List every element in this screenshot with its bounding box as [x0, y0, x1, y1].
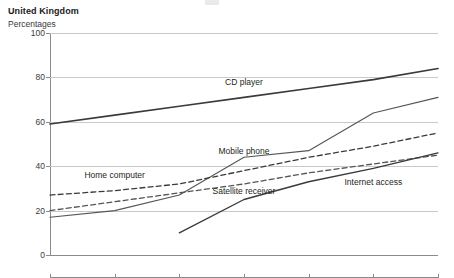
x-tick-mark-6	[438, 274, 439, 278]
series-label-home-computer: Home computer	[84, 170, 144, 180]
plot-area: 020406080100 1996/971997/981998/991999/0…	[50, 33, 438, 255]
series-label-satellite-receiver: Satellite receiver	[213, 186, 276, 196]
series-label-mobile-phone: Mobile phone	[218, 146, 269, 156]
x-tick-mark-5	[373, 274, 374, 278]
series-label-internet-access: Internet access	[345, 177, 403, 187]
y-tick-label-20: 20	[36, 206, 45, 216]
page-artifact-fragment	[205, 0, 219, 5]
y-tick-label-80: 80	[36, 72, 45, 82]
series-label-cd-player: CD player	[225, 77, 263, 87]
x-tick-mark-1	[115, 274, 116, 278]
y-tick-label-100: 100	[31, 28, 45, 38]
y-tick-label-0: 0	[40, 250, 45, 260]
chart-country-title: United Kingdom	[8, 6, 79, 16]
y-tick-label-60: 60	[36, 117, 45, 127]
x-tick-mark-2	[179, 274, 180, 278]
y-tick-mark-0	[46, 255, 50, 256]
gridline-0	[50, 255, 438, 256]
series-lines	[50, 33, 438, 255]
x-tick-mark-4	[309, 274, 310, 278]
x-tick-mark-3	[244, 274, 245, 278]
y-tick-label-40: 40	[36, 161, 45, 171]
x-tick-mark-0	[50, 274, 51, 278]
chart-container: United Kingdom Percentages 020406080100 …	[0, 0, 454, 278]
